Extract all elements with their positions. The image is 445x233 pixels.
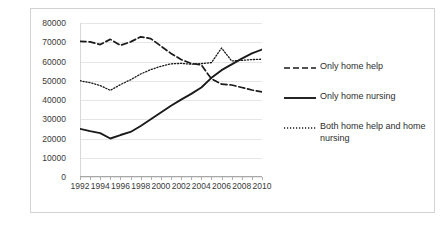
series-line (80, 37, 262, 92)
x-axis-tick-mark (222, 177, 223, 180)
y-axis-tick-label: 80000 (20, 19, 66, 28)
series-lines (80, 23, 262, 177)
legend-line-sample (283, 62, 317, 74)
legend-item[interactable]: Only home help (283, 61, 433, 74)
x-axis-tick-label: 2008 (232, 181, 251, 191)
y-axis-tick-label: 40000 (20, 96, 66, 105)
y-axis-tick-label: 50000 (20, 77, 66, 86)
x-axis-tick-label: 2002 (172, 181, 191, 191)
x-axis-tick-mark (120, 177, 121, 180)
legend-line-sample (283, 122, 317, 134)
legend-label: Only home nursing (317, 91, 396, 103)
x-axis-tick-label: 2000 (151, 181, 170, 191)
y-axis-tick-label: 60000 (20, 57, 66, 66)
x-axis-tick-mark (181, 177, 182, 180)
x-axis-tick-mark (201, 177, 202, 180)
x-axis-tick-label: 1994 (91, 181, 110, 191)
x-axis-tick-label: 2010 (253, 181, 272, 191)
x-axis-tick-mark (90, 177, 91, 180)
x-axis-tick-mark (171, 177, 172, 180)
series-line (80, 50, 262, 139)
x-axis-tick-mark (211, 177, 212, 180)
legend-label: Both home help and home nursing (317, 121, 433, 144)
x-axis-tick-mark (80, 177, 81, 180)
x-axis-tick-mark (110, 177, 111, 180)
x-axis-tick-label: 1996 (111, 181, 130, 191)
plot-area (80, 23, 262, 177)
x-axis-tick-label: 1992 (71, 181, 90, 191)
x-axis-tick-mark (242, 177, 243, 180)
legend-item[interactable]: Only home nursing (283, 91, 433, 104)
chart-container: 0100002000030000400005000060000700008000… (30, 8, 435, 213)
plot-area-wrapper: 0100002000030000400005000060000700008000… (31, 9, 279, 212)
x-axis-tick-mark (141, 177, 142, 180)
x-axis-tick-mark (232, 177, 233, 180)
x-axis-tick-label: 2006 (212, 181, 231, 191)
x-axis-tick-mark (191, 177, 192, 180)
chart-legend: Only home helpOnly home nursingBoth home… (283, 61, 433, 161)
x-axis-tick-mark (100, 177, 101, 180)
x-axis-tick-label: 2004 (192, 181, 211, 191)
x-axis-tick-mark (151, 177, 152, 180)
legend-item[interactable]: Both home help and home nursing (283, 121, 433, 144)
legend-label: Only home help (317, 61, 383, 73)
x-axis-tick-label: 1998 (131, 181, 150, 191)
y-axis-tick-label: 70000 (20, 38, 66, 47)
x-axis-tick-mark (161, 177, 162, 180)
y-axis-tick-label: 30000 (20, 115, 66, 124)
x-axis-tick-mark (262, 177, 263, 180)
y-axis-tick-label: 0 (20, 173, 66, 182)
x-axis-tick-mark (131, 177, 132, 180)
y-axis-tick-label: 10000 (20, 154, 66, 163)
legend-line-sample (283, 92, 317, 104)
y-axis-tick-label: 20000 (20, 134, 66, 143)
x-axis-tick-mark (252, 177, 253, 180)
